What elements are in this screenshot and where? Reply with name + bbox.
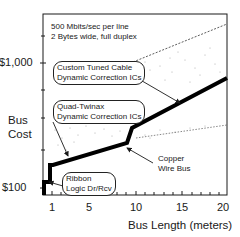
custom-cable-label-line-1: Custom Tuned Cable — [57, 63, 141, 73]
quad-twinax-label-line-1: Quad-Twinax — [57, 102, 141, 112]
quad-twinax-arrow — [53, 122, 68, 156]
ribbon-label-line-2: Logic Dr/Rcv — [66, 184, 112, 194]
custom-cable-dashed-line — [133, 24, 227, 62]
quad-twinax-label: Quad-Twinax Dynamic Correction ICs — [53, 100, 145, 124]
copper-arrow — [127, 148, 153, 163]
x-tick-5: 5 — [86, 202, 92, 213]
y-axis-title: Bus Cost — [8, 113, 32, 141]
y-axis-title-line-2: Cost — [8, 127, 32, 141]
x-tick-1: 1 — [49, 202, 55, 213]
x-tick-20: 20 — [217, 202, 229, 213]
chart-note: 500 Mbits/sec per line 2 Bytes wide, ful… — [51, 22, 137, 42]
note-line-1: 500 Mbits/sec per line — [51, 22, 137, 32]
ribbon-label: Ribbon Logic Dr/Rcv — [62, 172, 116, 196]
copper-wire-label: Copper Wire Bus — [158, 154, 190, 174]
x-tick-15: 15 — [176, 202, 188, 213]
y-axis-title-line-1: Bus — [8, 113, 32, 127]
y-tick-1000: $1,000 — [0, 57, 33, 68]
x-tick-10: 10 — [130, 202, 142, 213]
custom-cable-arrow — [137, 78, 180, 103]
copper-wire-label-line-1: Copper — [158, 154, 190, 164]
custom-cable-label-line-2: Dynamic Correction ICs — [57, 73, 141, 83]
custom-cable-label: Custom Tuned Cable Dynamic Correction IC… — [53, 61, 145, 85]
note-line-2: 2 Bytes wide, full duplex — [51, 32, 137, 42]
ribbon-label-line-1: Ribbon — [66, 174, 112, 184]
copper-wire-label-line-2: Wire Bus — [158, 164, 190, 174]
y-tick-100: $100 — [2, 182, 26, 193]
x-axis-title: Bus Length (meters) — [128, 220, 232, 232]
quad-twinax-label-line-2: Dynamic Correction ICs — [57, 112, 141, 122]
copper-dashed-line — [136, 125, 227, 138]
